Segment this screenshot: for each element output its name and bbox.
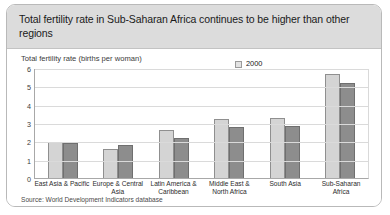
bar-2008[interactable] bbox=[285, 126, 300, 178]
gridline bbox=[35, 142, 368, 143]
bar-2000[interactable] bbox=[214, 119, 229, 178]
gridline bbox=[35, 106, 368, 107]
y-tick-label: 0 bbox=[27, 176, 31, 183]
x-tick-label: South Asia bbox=[257, 180, 313, 196]
x-tick-label: Sub-Saharan Africa bbox=[313, 180, 369, 196]
y-tick-label: 4 bbox=[27, 102, 31, 109]
y-tick-label: 6 bbox=[27, 66, 31, 73]
legend-label-2000: 2000 bbox=[246, 60, 262, 68]
bar-2000[interactable] bbox=[270, 118, 285, 179]
x-tick-label: East Asia & Pacific bbox=[34, 180, 90, 196]
bar-2008[interactable] bbox=[340, 83, 355, 178]
gridline bbox=[35, 69, 368, 70]
page-title: Total fertility rate in Sub-Saharan Afri… bbox=[19, 13, 359, 40]
card-header: Total fertility rate in Sub-Saharan Afri… bbox=[7, 5, 381, 49]
source-note: Source: World Development Indicators dat… bbox=[21, 196, 163, 203]
gridline bbox=[35, 87, 368, 88]
y-axis-ticks: 0123456 bbox=[21, 69, 31, 179]
x-axis-labels: East Asia & PacificEurope & Central Asia… bbox=[34, 180, 369, 196]
gridline bbox=[35, 124, 368, 125]
y-tick-label: 1 bbox=[27, 157, 31, 164]
bar-2000[interactable] bbox=[325, 74, 340, 179]
chart-card: Total fertility rate in Sub-Saharan Afri… bbox=[6, 4, 382, 207]
bar-2000[interactable] bbox=[159, 130, 174, 178]
plot-area bbox=[34, 69, 369, 179]
bar-2008[interactable] bbox=[229, 127, 244, 178]
x-tick-label: Europe & Central Asia bbox=[90, 180, 146, 196]
y-axis-title: Total fertility rate (births per woman) bbox=[21, 54, 142, 63]
gridline bbox=[35, 161, 368, 162]
x-tick-label: Latin America & Caribbean bbox=[146, 180, 202, 196]
legend-item-2000[interactable]: 2000 bbox=[235, 59, 262, 69]
y-tick-label: 2 bbox=[27, 139, 31, 146]
y-tick-label: 3 bbox=[27, 121, 31, 128]
plot-wrapper: 0123456 bbox=[21, 69, 369, 179]
bar-2000[interactable] bbox=[103, 149, 118, 178]
bar-2008[interactable] bbox=[174, 138, 189, 178]
card-body: Total fertility rate (births per woman) … bbox=[7, 49, 381, 207]
legend-swatch-2000 bbox=[235, 61, 242, 68]
y-tick-label: 5 bbox=[27, 84, 31, 91]
x-tick-label: Middle East & North Africa bbox=[201, 180, 257, 196]
